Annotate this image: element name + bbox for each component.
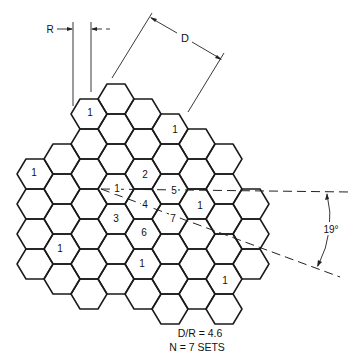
- hex-cell: [152, 144, 188, 174]
- hex-cell: [71, 249, 107, 279]
- hex-cell: [206, 294, 242, 324]
- cell-channel-label: 1: [172, 124, 178, 135]
- hex-cell: [125, 129, 161, 159]
- angle-label: 19°: [323, 224, 338, 235]
- cell-channel-label: 2: [142, 169, 148, 180]
- hex-cell: [71, 279, 107, 309]
- hex-cell: [71, 219, 107, 249]
- cell-channel-label: 1: [139, 258, 145, 269]
- hex-cell: [71, 159, 107, 189]
- hex-cell: [44, 264, 80, 294]
- hex-cell: [152, 114, 188, 144]
- hex-cell: [179, 129, 215, 159]
- cell-channel-label: 5: [171, 185, 177, 196]
- cell-channel-label: 6: [141, 227, 147, 238]
- hex-cell: [44, 144, 80, 174]
- d-dimension: D: [112, 13, 224, 112]
- cell-channel-label: 1: [222, 275, 228, 286]
- hex-cell: [179, 279, 215, 309]
- r-label: R: [46, 24, 53, 35]
- hex-cell: [98, 84, 134, 114]
- d-label: D: [181, 32, 189, 44]
- hex-cell: [206, 144, 242, 174]
- cell-channel-label: 3: [113, 213, 119, 224]
- hex-cell: [44, 204, 80, 234]
- cell-channel-label: 1: [197, 200, 203, 211]
- cell-channel-label: 1: [57, 243, 63, 254]
- hex-cell: [17, 219, 53, 249]
- hex-cell: [152, 294, 188, 324]
- hex-cell: [71, 189, 107, 219]
- arrowhead-icon: [67, 27, 73, 31]
- hex-cell: [152, 264, 188, 294]
- cell-channel-label: 1: [114, 183, 120, 194]
- cell-channel-label: 1: [87, 107, 93, 118]
- hex-cell: [233, 189, 269, 219]
- arrowhead-icon: [325, 193, 329, 200]
- hex-cell: [233, 249, 269, 279]
- cell-channel-label: 7: [170, 213, 176, 224]
- hex-cell: [206, 174, 242, 204]
- hex-cell: [125, 99, 161, 129]
- hex-cell: [44, 174, 80, 204]
- r-dimension: R: [46, 22, 110, 106]
- hex-cell: [71, 129, 107, 159]
- hex-cell: [179, 219, 215, 249]
- d-extension-line-left: [112, 13, 152, 78]
- hex-cell: [17, 189, 53, 219]
- hex-cell: [98, 264, 134, 294]
- hex-cell: [17, 249, 53, 279]
- ratio-caption: D/R = 4.6: [178, 327, 223, 339]
- hex-cell: [125, 279, 161, 309]
- cell-channel-label: 4: [142, 199, 148, 210]
- hex-cell: [98, 114, 134, 144]
- hex-cell: [179, 159, 215, 189]
- hex-cell: [98, 234, 134, 264]
- arrowhead-icon: [91, 27, 97, 31]
- sets-caption: N = 7 SETS: [169, 341, 225, 353]
- hex-cell: [179, 249, 215, 279]
- d-extension-line-right: [188, 53, 224, 112]
- hex-cell: [98, 144, 134, 174]
- arrowhead-icon: [317, 260, 322, 267]
- hex-cell: [152, 234, 188, 264]
- cell-channel-label: 1: [31, 167, 37, 178]
- hexagonal-cell-reuse-diagram: R D 19° 11121541376111 D/R = 4.6 N = 7 S…: [0, 0, 358, 361]
